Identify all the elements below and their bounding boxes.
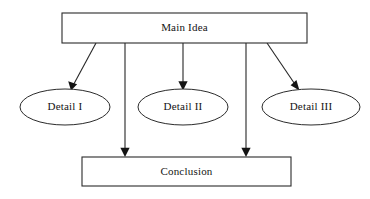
arrowhead-icon — [291, 80, 300, 91]
edge-main-to-detail1 — [68, 43, 96, 91]
edge-line — [73, 43, 97, 87]
flowchart-svg: Main Idea Detail I Detail II Detail III … — [0, 0, 370, 199]
detail-2-label: Detail II — [164, 100, 203, 112]
node-detail-3[interactable]: Detail III — [262, 89, 360, 125]
flowchart-canvas: Main Idea Detail I Detail II Detail III … — [0, 0, 370, 199]
node-detail-2[interactable]: Detail II — [138, 89, 228, 125]
edge-main-to-detail3 — [267, 43, 300, 91]
conclusion-label: Conclusion — [160, 165, 212, 177]
node-detail-1[interactable]: Detail I — [20, 89, 110, 125]
main-idea-label: Main Idea — [161, 21, 208, 33]
edge-main-to-conclusion-left — [120, 43, 129, 157]
arrowhead-icon — [241, 148, 250, 157]
edge-line — [267, 43, 297, 87]
detail-1-label: Detail I — [48, 100, 83, 112]
node-main-idea[interactable]: Main Idea — [62, 13, 307, 43]
edge-main-to-conclusion-right — [241, 43, 250, 157]
edge-main-to-detail2 — [178, 43, 187, 91]
arrowhead-icon — [120, 148, 129, 157]
detail-3-label: Detail III — [290, 100, 333, 112]
node-conclusion[interactable]: Conclusion — [82, 157, 291, 186]
